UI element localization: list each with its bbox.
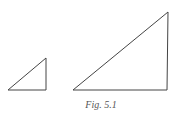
large-triangle <box>73 12 168 90</box>
small-triangle <box>8 58 46 90</box>
figure-caption: Fig. 5.1 <box>0 99 176 110</box>
